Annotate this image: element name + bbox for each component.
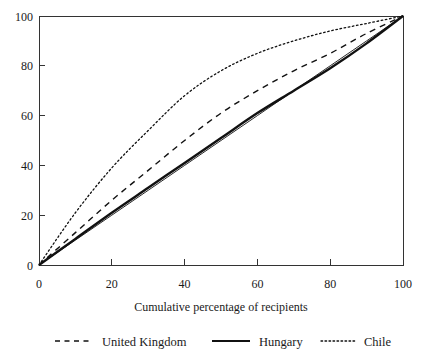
chart-canvas: 100 80 60 40 20 0 0 20 40 60 80 100 (0, 0, 423, 357)
data-series-group (39, 16, 403, 265)
x-axis-title: Cumulative percentage of recipients (134, 300, 308, 314)
y-axis-ticks (39, 16, 45, 265)
x-tick-label: 100 (394, 277, 412, 291)
x-tick-label: 0 (36, 277, 42, 291)
x-tick-label: 80 (324, 277, 336, 291)
y-tick-label: 0 (27, 259, 33, 273)
lorenz-curve-chart: 100 80 60 40 20 0 0 20 40 60 80 100 (0, 0, 423, 357)
legend-label-hungary: Hungary (259, 335, 303, 349)
y-tick-label: 20 (21, 209, 33, 223)
x-tick-label: 60 (251, 277, 263, 291)
chart-legend: United Kingdom Hungary Chile (55, 335, 392, 349)
x-axis-ticks (39, 259, 403, 265)
legend-label-chile: Chile (364, 335, 392, 349)
series-line-of-equality (39, 16, 403, 265)
y-tick-label: 80 (21, 59, 33, 73)
x-axis-tick-labels: 0 20 40 60 80 100 (36, 277, 412, 291)
y-tick-label: 40 (21, 159, 33, 173)
y-tick-label: 100 (15, 10, 33, 24)
y-tick-label: 60 (21, 109, 33, 123)
x-tick-label: 20 (106, 277, 118, 291)
y-axis-tick-labels: 100 80 60 40 20 0 (15, 10, 33, 273)
x-tick-label: 40 (179, 277, 191, 291)
legend-label-united-kingdom: United Kingdom (102, 335, 187, 349)
